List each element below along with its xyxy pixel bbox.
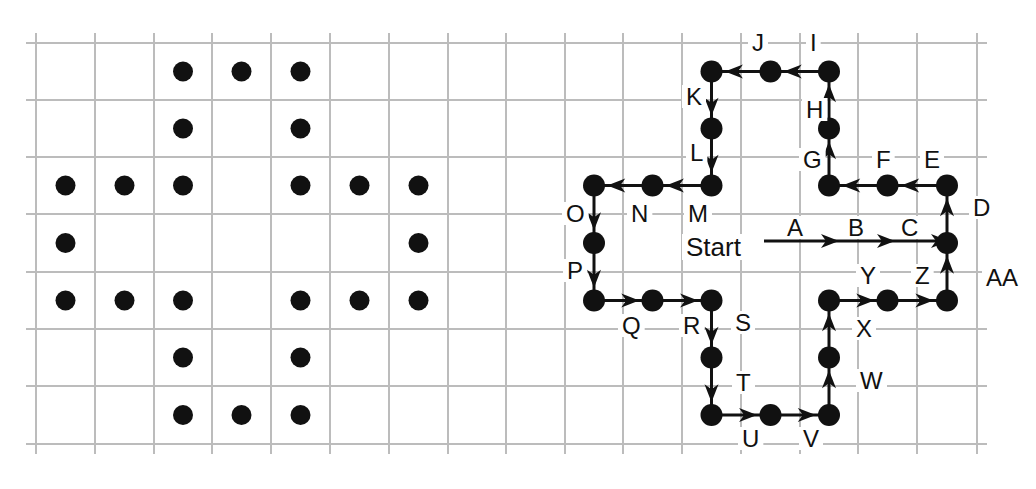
- left-dot-pattern: [56, 62, 429, 426]
- path-dot: [583, 175, 605, 197]
- step-label-x: X: [856, 315, 872, 342]
- step-label-a: A: [787, 214, 803, 241]
- step-label-y: Y: [860, 262, 876, 289]
- dot: [350, 291, 370, 311]
- dot: [173, 348, 193, 368]
- path-dot: [701, 61, 723, 83]
- dot: [56, 176, 76, 196]
- step-label-t: T: [736, 369, 751, 396]
- path-dot: [877, 290, 899, 312]
- step-label-s: S: [735, 309, 751, 336]
- path-dot: [583, 290, 605, 312]
- dot: [173, 62, 193, 82]
- step-label-w: W: [860, 367, 883, 394]
- dot: [173, 405, 193, 425]
- dot: [115, 176, 135, 196]
- dot: [409, 233, 429, 253]
- path-dot: [701, 290, 723, 312]
- dot: [173, 291, 193, 311]
- traced-path: [583, 61, 958, 427]
- step-label-g: G: [803, 146, 822, 173]
- path-dot: [818, 347, 840, 369]
- step-label-j: J: [752, 29, 764, 56]
- step-label-o: O: [566, 200, 585, 227]
- step-label-m: M: [688, 200, 708, 227]
- grid-diagram: StartABCDEFGHIJKLMNOPQRSTUVWXYZAA: [0, 0, 1036, 489]
- path-dot: [818, 61, 840, 83]
- dot: [291, 176, 311, 196]
- path-dot: [583, 232, 605, 254]
- path-dot: [936, 175, 958, 197]
- step-label-n: N: [631, 200, 648, 227]
- step-label-r: R: [683, 312, 700, 339]
- path-dot: [936, 232, 958, 254]
- path-dot: [936, 290, 958, 312]
- dot: [232, 405, 252, 425]
- step-label-u: U: [742, 425, 759, 452]
- path-dot: [760, 404, 782, 426]
- diagram-canvas: StartABCDEFGHIJKLMNOPQRSTUVWXYZAA: [0, 0, 1036, 489]
- dot: [291, 348, 311, 368]
- step-label-h: H: [806, 96, 823, 123]
- step-label-v: V: [803, 425, 819, 452]
- step-label-c: C: [901, 214, 918, 241]
- step-label-k: K: [686, 83, 702, 110]
- dot: [291, 291, 311, 311]
- path-dot: [760, 61, 782, 83]
- step-label-q: Q: [622, 312, 641, 339]
- step-label-e: E: [924, 146, 940, 173]
- path-dot: [818, 290, 840, 312]
- path-dot: [818, 175, 840, 197]
- start-label: Start: [686, 232, 742, 262]
- dot: [115, 291, 135, 311]
- step-label-d: D: [973, 194, 990, 221]
- path-dot: [701, 175, 723, 197]
- dot: [232, 62, 252, 82]
- path-dot: [818, 404, 840, 426]
- dot: [56, 233, 76, 253]
- path-dot: [701, 118, 723, 140]
- dot: [409, 176, 429, 196]
- path-dot: [642, 290, 664, 312]
- dot: [173, 119, 193, 139]
- path-dot: [701, 347, 723, 369]
- step-label-i: I: [810, 29, 817, 56]
- step-label-aa: AA: [986, 264, 1018, 291]
- grid: [26, 33, 987, 454]
- dot: [291, 119, 311, 139]
- step-label-f: F: [876, 146, 891, 173]
- dot: [291, 62, 311, 82]
- path-dot: [877, 175, 899, 197]
- step-label-z: Z: [915, 262, 930, 289]
- dot: [350, 176, 370, 196]
- dot: [291, 405, 311, 425]
- path-dot: [701, 404, 723, 426]
- step-label-p: P: [567, 257, 583, 284]
- step-label-b: B: [848, 214, 864, 241]
- step-label-l: L: [690, 139, 703, 166]
- dot: [409, 291, 429, 311]
- path-dot: [642, 175, 664, 197]
- dot: [56, 291, 76, 311]
- dot: [173, 176, 193, 196]
